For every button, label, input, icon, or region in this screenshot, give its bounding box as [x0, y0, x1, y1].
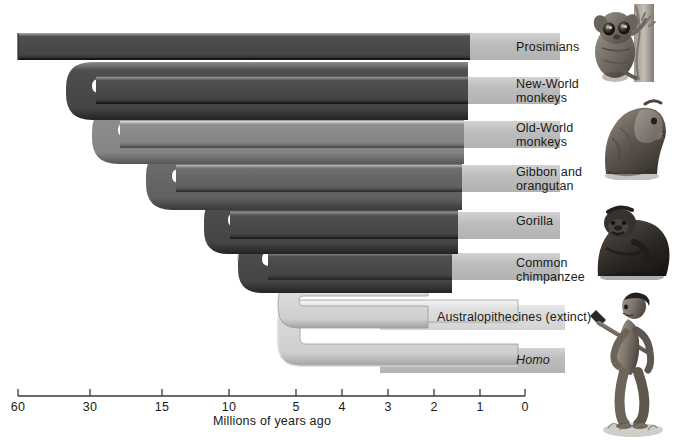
- branch-new-world-monkeys: [66, 62, 468, 120]
- phylogeny-tree-graphic: [0, 0, 680, 444]
- tip-label-gibbon-orangutan: Gibbon and orangutan: [516, 165, 582, 193]
- tip-label-australopithecines: Australopithecines (extinct): [437, 310, 591, 324]
- tip-label-prosimians: Prosimians: [516, 40, 579, 54]
- axis-tick-label-5: 5: [292, 400, 299, 414]
- axis-tick-label-1: 1: [476, 400, 483, 414]
- axis-caption: Millions of years ago: [213, 414, 331, 428]
- axis-tick-label-10: 10: [222, 400, 236, 414]
- figure-canvas: Prosimians New-World monkeys Old-World m…: [0, 0, 680, 444]
- axis-tick-label-3: 3: [384, 400, 391, 414]
- tip-label-old-world-monkeys: Old-World monkeys: [516, 121, 573, 149]
- tip-label-homo: Homo: [516, 353, 550, 367]
- axis-tick-label-60: 60: [11, 400, 25, 414]
- axis-tick-label-30: 30: [83, 400, 97, 414]
- axis-tick-label-0: 0: [521, 400, 528, 414]
- tip-label-new-world-monkeys: New-World monkeys: [516, 77, 579, 105]
- tip-label-gorilla: Gorilla: [516, 214, 553, 228]
- tip-label-common-chimpanzee: Common chimpanzee: [516, 256, 585, 284]
- axis-tick-label-4: 4: [338, 400, 345, 414]
- axis-tick-marks: [18, 389, 525, 396]
- axis-tick-label-15: 15: [155, 400, 169, 414]
- time-axis: [18, 389, 525, 396]
- axis-tick-label-2: 2: [430, 400, 437, 414]
